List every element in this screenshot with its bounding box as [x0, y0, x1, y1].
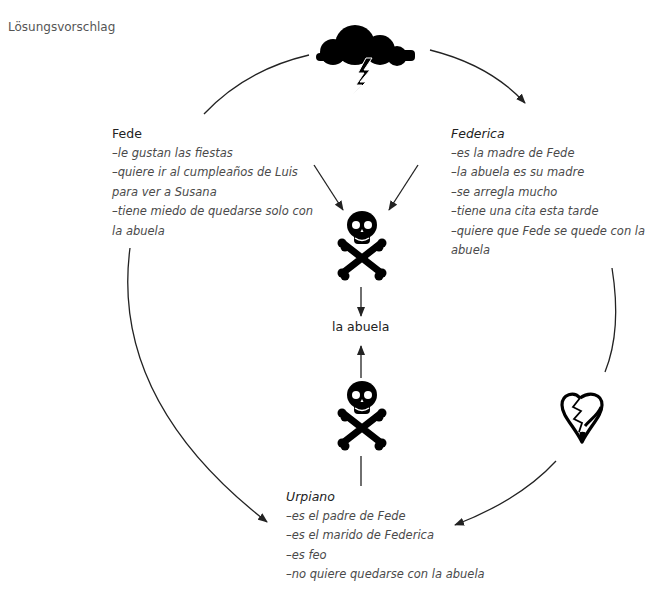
fede-name: Fede — [112, 124, 313, 144]
urpiano-line: –es el marido de Federica — [286, 526, 485, 546]
federica-line: –tiene una cita esta tarde — [451, 202, 645, 222]
skull-crossbones-icon — [338, 381, 387, 451]
urpiano-line: –es feo — [286, 546, 485, 566]
arc-fede-to-storm — [204, 55, 309, 114]
urpiano-block: Urpiano –es el padre de Fede –es el mari… — [286, 487, 485, 585]
federica-line: –se arregla mucho — [451, 183, 645, 203]
center-label-abuela: la abuela — [332, 319, 389, 334]
federica-block: Federica –es la madre de Fede –la abuela… — [451, 124, 645, 261]
urpiano-name: Urpiano — [286, 487, 485, 507]
federica-line: –quiere que Fede se quede con la — [451, 222, 645, 242]
storm-cloud-lightning-icon — [316, 25, 415, 96]
page-label: Lösungsvorschlag — [8, 20, 115, 34]
fede-line: para ver a Susana — [112, 183, 313, 203]
arc-federica-to-heart — [605, 268, 616, 372]
skull-crossbones-icon — [338, 211, 387, 281]
arrow-federica-to-skull — [389, 165, 418, 210]
arrow-fede-to-skull — [314, 165, 343, 210]
urpiano-line: –no quiere quedarse con la abuela — [286, 565, 485, 585]
fede-block: Fede –le gustan las fiestas –quiere ir a… — [112, 124, 313, 241]
fede-line: –le gustan las fiestas — [112, 144, 313, 164]
federica-name: Federica — [451, 124, 645, 144]
arc-fede-to-urpiano — [128, 248, 267, 522]
fede-line: –quiere ir al cumpleaños de Luis — [112, 163, 313, 183]
arc-storm-to-federica[interactable] — [430, 50, 525, 103]
federica-line: abuela — [451, 241, 645, 261]
urpiano-line: –es el padre de Fede — [286, 507, 485, 527]
fede-line: la abuela — [112, 222, 313, 242]
fede-line: –tiene miedo de quedarse solo con — [112, 202, 313, 222]
broken-heart-icon — [562, 394, 602, 442]
federica-line: –la abuela es su madre — [451, 163, 645, 183]
federica-line: –es la madre de Fede — [451, 144, 645, 164]
